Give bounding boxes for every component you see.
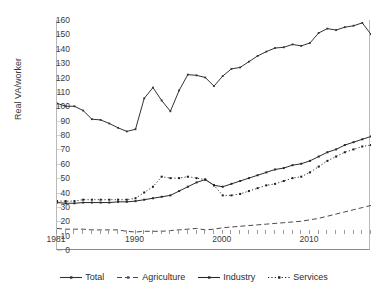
- series-marker-industry: [222, 186, 224, 188]
- legend-label: Services: [293, 272, 328, 282]
- series-marker-services: [213, 184, 215, 186]
- series-marker-services: [300, 176, 302, 178]
- legend-item-agriculture[interactable]: Agriculture: [117, 272, 185, 282]
- y-axis-tick-label: 110: [30, 87, 70, 97]
- series-marker-total: [318, 32, 320, 34]
- series-marker-industry: [292, 164, 294, 166]
- chart-legend: TotalAgricultureIndustryServices: [0, 272, 388, 282]
- series-marker-services: [143, 192, 145, 194]
- x-axis-tick-mark: [91, 230, 92, 234]
- series-marker-industry: [91, 202, 93, 204]
- series-marker-industry: [143, 199, 145, 201]
- x-axis-tick-mark: [100, 230, 101, 234]
- series-marker-total: [326, 28, 328, 30]
- legend-swatch-services: [268, 273, 290, 282]
- series-marker-total: [178, 90, 180, 92]
- series-marker-total: [82, 110, 84, 112]
- y-axis-tick-label: 70: [30, 144, 70, 154]
- series-marker-total: [187, 74, 189, 76]
- y-axis-tick-label: 20: [30, 216, 70, 226]
- series-marker-total: [108, 123, 110, 125]
- series-marker-services: [370, 144, 371, 146]
- x-axis-tick-mark: [239, 230, 240, 234]
- series-marker-industry: [370, 135, 371, 137]
- x-axis-tick-mark: [335, 230, 336, 234]
- series-marker-industry: [73, 202, 75, 204]
- y-axis-tick-label: 120: [30, 73, 70, 83]
- legend-swatch-industry: [198, 273, 220, 282]
- legend-label: Agriculture: [142, 272, 185, 282]
- series-marker-total: [353, 25, 355, 27]
- x-axis-tick-label: 1981: [47, 234, 66, 244]
- x-axis-tick-mark: [117, 230, 118, 234]
- series-marker-industry: [318, 156, 320, 158]
- series-marker-total: [344, 26, 346, 28]
- x-axis-tick-label: 1990: [125, 234, 144, 244]
- x-axis-tick-mark: [344, 230, 345, 234]
- series-marker-total: [100, 119, 102, 121]
- series-marker-services: [152, 186, 154, 188]
- series-marker-total: [161, 100, 163, 102]
- x-axis-tick-mark: [326, 230, 327, 234]
- legend-label: Total: [85, 272, 104, 282]
- x-axis-tick-label: 2000: [212, 234, 231, 244]
- series-marker-total: [74, 105, 76, 107]
- series-marker-total: [152, 87, 154, 89]
- series-marker-industry: [257, 174, 259, 176]
- series-marker-industry: [361, 138, 363, 140]
- x-axis-tick-mark: [82, 230, 83, 234]
- x-axis-tick-mark: [361, 230, 362, 234]
- series-marker-industry: [161, 196, 163, 198]
- series-marker-services: [117, 199, 119, 201]
- x-axis-tick-mark: [187, 230, 188, 234]
- series-marker-total: [231, 68, 233, 70]
- series-marker-total: [196, 74, 198, 76]
- series-marker-industry: [283, 167, 285, 169]
- series-marker-services: [239, 193, 241, 195]
- y-axis-tick-label: 130: [30, 58, 70, 68]
- series-marker-industry: [100, 202, 102, 204]
- series-marker-industry: [178, 190, 180, 192]
- series-marker-total: [169, 110, 171, 112]
- x-axis-tick-mark: [283, 230, 284, 234]
- series-marker-industry: [239, 180, 241, 182]
- series-marker-total: [335, 29, 337, 31]
- series-marker-total: [239, 67, 241, 69]
- series-marker-industry: [108, 202, 110, 204]
- series-marker-total: [135, 128, 137, 130]
- x-axis-tick-mark: [265, 230, 266, 234]
- y-axis-tick-label: 80: [30, 130, 70, 140]
- series-line-industry: [57, 136, 371, 203]
- series-marker-services: [126, 199, 128, 201]
- series-marker-total: [257, 55, 259, 57]
- x-axis-tick-mark: [73, 230, 74, 234]
- x-axis-tick-mark: [204, 230, 205, 234]
- series-marker-total: [309, 42, 311, 44]
- series-marker-services: [274, 183, 276, 185]
- series-marker-total: [126, 131, 128, 133]
- series-marker-industry: [169, 194, 171, 196]
- chart-svg: [57, 20, 371, 250]
- legend-item-total[interactable]: Total: [60, 272, 104, 282]
- y-axis-tick-label: 100: [30, 101, 70, 111]
- y-axis-tick-label: 150: [30, 29, 70, 39]
- series-marker-services: [309, 171, 311, 173]
- legend-swatch-agriculture: [117, 273, 139, 282]
- y-axis-tick-label: 40: [30, 188, 70, 198]
- series-marker-industry: [152, 197, 154, 199]
- series-marker-services: [335, 156, 337, 158]
- series-marker-industry: [196, 181, 198, 183]
- series-line-total: [57, 23, 371, 132]
- y-axis-tick-label: 140: [30, 44, 70, 54]
- series-marker-total: [91, 118, 93, 120]
- series-marker-total: [283, 46, 285, 48]
- legend-label: Industry: [223, 272, 255, 282]
- series-marker-services: [161, 176, 163, 178]
- legend-item-industry[interactable]: Industry: [198, 272, 255, 282]
- series-marker-total: [222, 75, 224, 77]
- series-marker-services: [108, 199, 110, 201]
- series-marker-total: [361, 22, 363, 24]
- legend-item-services[interactable]: Services: [268, 272, 328, 282]
- series-marker-services: [178, 177, 180, 179]
- x-axis-tick-mark: [370, 230, 371, 234]
